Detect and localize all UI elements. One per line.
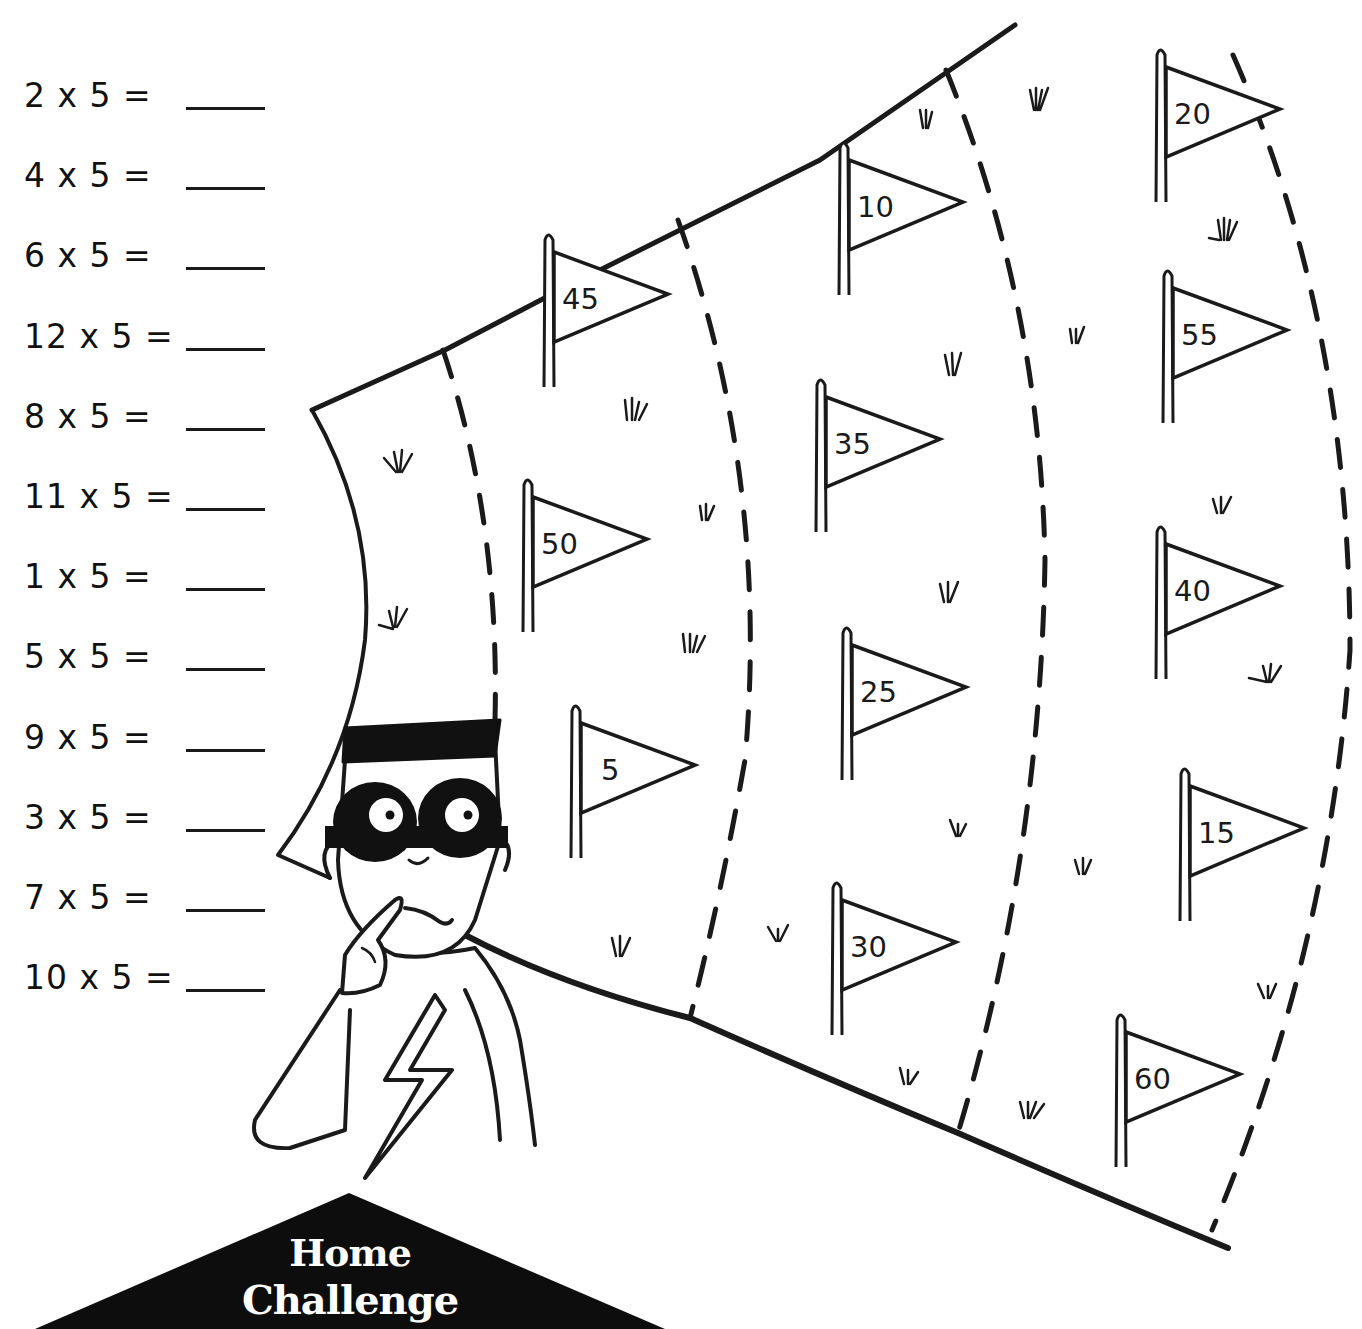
flag: 30	[832, 883, 956, 1035]
flag-number: 20	[1174, 97, 1211, 131]
flag-number: 60	[1134, 1062, 1171, 1096]
flag: 10	[839, 143, 963, 295]
flag-group: 45102035555025405153060	[523, 50, 1304, 1167]
flag-number: 40	[1174, 574, 1211, 608]
flag-number: 50	[541, 527, 578, 561]
race-track-illustration: 45102035555025405153060	[0, 0, 1362, 1329]
home-challenge-banner: Home Challenge	[0, 1190, 700, 1329]
flag-number: 10	[857, 190, 894, 224]
arm	[254, 990, 350, 1148]
grass-tufts	[379, 88, 1281, 1118]
flag: 40	[1156, 527, 1280, 679]
flag: 5	[571, 706, 695, 858]
banner-title-line1: Home	[0, 1230, 700, 1275]
flag: 15	[1180, 769, 1304, 921]
flag: 50	[523, 480, 647, 632]
flag-number: 35	[834, 427, 871, 461]
lane-divider-3	[946, 70, 1045, 1133]
flag: 45	[544, 235, 668, 387]
flag: 60	[1116, 1015, 1240, 1167]
hair	[343, 720, 500, 762]
flag-number: 15	[1198, 816, 1235, 850]
banner-title-line2: Challenge	[0, 1276, 700, 1323]
lane-divider-1	[443, 350, 495, 720]
flag-pennant	[581, 723, 695, 813]
flag-number: 45	[562, 282, 599, 316]
flag: 35	[816, 380, 940, 532]
lane-divider-2	[678, 220, 750, 1018]
lightning-bolt-emblem	[365, 995, 452, 1178]
right-eye	[445, 798, 479, 832]
flag-number: 5	[601, 753, 619, 787]
flag-number: 30	[850, 930, 887, 964]
flag-number: 55	[1181, 318, 1218, 352]
flag-number: 25	[860, 675, 897, 709]
flag: 55	[1163, 271, 1287, 423]
flag: 25	[842, 628, 966, 780]
